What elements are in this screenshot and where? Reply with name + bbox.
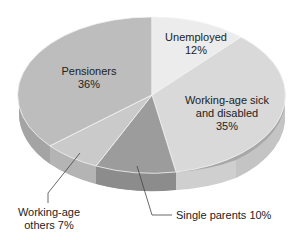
label-others-line2: others 7%: [14, 219, 84, 232]
label-sick-value: 35%: [176, 120, 278, 133]
label-unemployed-name: Unemployed: [160, 31, 232, 44]
label-working-age-others: Working-age others 7%: [14, 206, 84, 232]
label-single-text: Single parents 10%: [176, 209, 271, 221]
label-sick-line2: and disabled: [176, 107, 278, 120]
label-sick-disabled: Working-age sick and disabled 35%: [176, 94, 278, 133]
label-pensioners-value: 36%: [55, 78, 123, 91]
label-sick-line1: Working-age sick: [176, 94, 278, 107]
label-others-line1: Working-age: [14, 206, 84, 219]
label-pensioners: Pensioners 36%: [55, 65, 123, 91]
label-single-parents: Single parents 10%: [176, 209, 271, 222]
label-pensioners-name: Pensioners: [55, 65, 123, 78]
label-unemployed: Unemployed 12%: [160, 31, 232, 57]
label-unemployed-value: 12%: [160, 44, 232, 57]
